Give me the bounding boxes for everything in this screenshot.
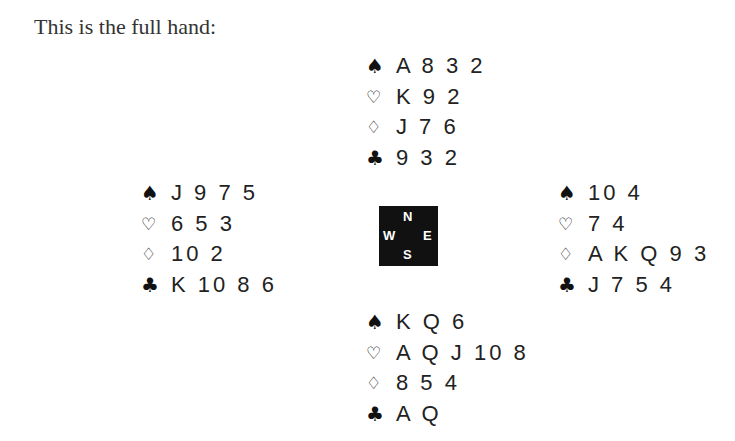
- east-hearts: 7 4: [588, 209, 628, 240]
- west-spades: J 9 7 5: [171, 178, 258, 209]
- club-icon: ♣: [141, 270, 171, 301]
- heart-icon: ♡: [366, 338, 396, 369]
- east-spades-row: ♠10 4: [558, 178, 709, 209]
- west-hearts-row: ♡6 5 3: [141, 209, 277, 240]
- east-diamonds: A K Q 9 3: [588, 239, 709, 270]
- south-diamonds: 8 5 4: [396, 368, 460, 399]
- diamond-icon: ♢: [366, 368, 396, 399]
- north-spades: A 8 3 2: [396, 51, 486, 82]
- club-icon: ♣: [366, 399, 396, 430]
- south-hearts: A Q J 10 8: [396, 338, 529, 369]
- south-clubs: A Q: [396, 399, 442, 430]
- south-diamonds-row: ♢8 5 4: [366, 368, 529, 399]
- compass-icon: N W E S: [379, 206, 438, 266]
- spade-icon: ♠: [366, 51, 396, 82]
- compass-west-label: W: [383, 228, 395, 243]
- spade-icon: ♠: [366, 307, 396, 338]
- north-hearts: K 9 2: [396, 82, 462, 113]
- club-icon: ♣: [366, 143, 396, 174]
- compass-south-label: S: [403, 247, 412, 262]
- diamond-icon: ♢: [366, 112, 396, 143]
- compass-east-label: E: [423, 228, 432, 243]
- spade-icon: ♠: [141, 178, 171, 209]
- east-hand: ♠10 4 ♡7 4 ♢A K Q 9 3 ♣J 7 5 4: [558, 178, 709, 300]
- north-hearts-row: ♡K 9 2: [366, 82, 486, 113]
- heart-icon: ♡: [366, 82, 396, 113]
- north-diamonds: J 7 6: [396, 112, 459, 143]
- north-clubs: 9 3 2: [396, 143, 460, 174]
- north-hand: ♠A 8 3 2 ♡K 9 2 ♢J 7 6 ♣9 3 2: [366, 51, 486, 173]
- west-hand: ♠J 9 7 5 ♡6 5 3 ♢10 2 ♣K 10 8 6: [141, 178, 277, 300]
- compass-north-label: N: [403, 209, 412, 224]
- club-icon: ♣: [558, 270, 588, 301]
- east-hearts-row: ♡7 4: [558, 209, 709, 240]
- south-hearts-row: ♡A Q J 10 8: [366, 338, 529, 369]
- south-spades-row: ♠K Q 6: [366, 307, 529, 338]
- east-clubs: J 7 5 4: [588, 270, 675, 301]
- east-clubs-row: ♣J 7 5 4: [558, 270, 709, 301]
- intro-text: This is the full hand:: [34, 14, 216, 40]
- west-diamonds: 10 2: [171, 239, 226, 270]
- spade-icon: ♠: [558, 178, 588, 209]
- north-diamonds-row: ♢J 7 6: [366, 112, 486, 143]
- west-diamonds-row: ♢10 2: [141, 239, 277, 270]
- west-clubs-row: ♣K 10 8 6: [141, 270, 277, 301]
- west-spades-row: ♠J 9 7 5: [141, 178, 277, 209]
- west-clubs: K 10 8 6: [171, 270, 277, 301]
- heart-icon: ♡: [141, 209, 171, 240]
- north-clubs-row: ♣9 3 2: [366, 143, 486, 174]
- east-diamonds-row: ♢A K Q 9 3: [558, 239, 709, 270]
- west-hearts: 6 5 3: [171, 209, 235, 240]
- south-hand: ♠K Q 6 ♡A Q J 10 8 ♢8 5 4 ♣A Q: [366, 307, 529, 429]
- diamond-icon: ♢: [558, 239, 588, 270]
- diamond-icon: ♢: [141, 239, 171, 270]
- north-spades-row: ♠A 8 3 2: [366, 51, 486, 82]
- heart-icon: ♡: [558, 209, 588, 240]
- east-spades: 10 4: [588, 178, 643, 209]
- south-spades: K Q 6: [396, 307, 467, 338]
- south-clubs-row: ♣A Q: [366, 399, 529, 430]
